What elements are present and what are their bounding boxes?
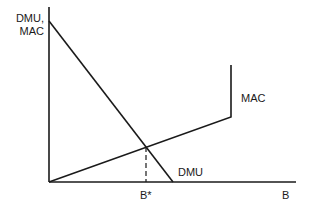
- equilibrium-label: B*: [140, 189, 152, 202]
- diagram-canvas: DMU, MAC MAC DMU B* B: [0, 0, 309, 214]
- x-axis-label: B: [282, 189, 289, 202]
- dmu-curve-label: DMU: [178, 166, 203, 179]
- mac-curve-label: MAC: [241, 92, 265, 105]
- y-axis-label: DMU, MAC: [14, 12, 44, 38]
- mac-curve: [49, 65, 231, 182]
- y-axis-label-line2: MAC: [14, 25, 44, 38]
- dmu-curve: [49, 21, 173, 182]
- diagram-svg: [0, 0, 309, 214]
- y-axis-label-line1: DMU,: [14, 12, 44, 25]
